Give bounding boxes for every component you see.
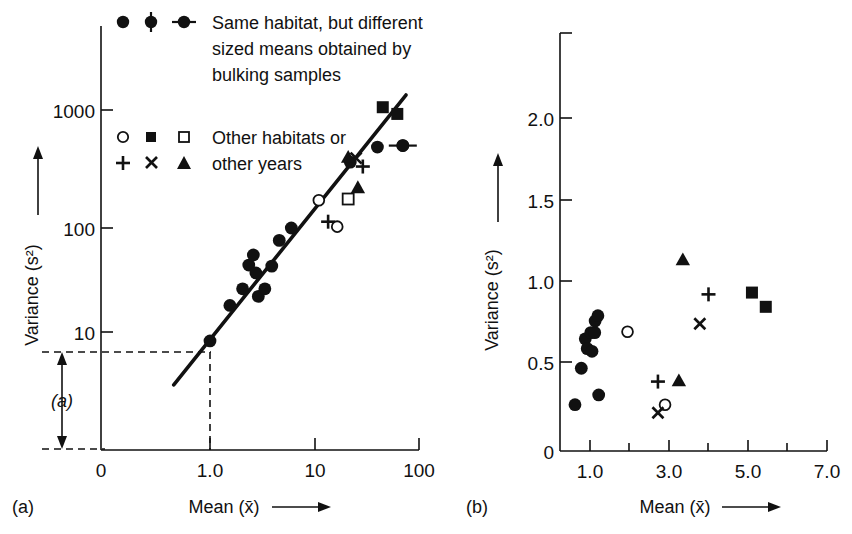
panel-a-guides: (a) [42,352,211,450]
marker-cross [694,318,705,329]
panel-a-xtick-label-10: 10 [304,460,325,481]
panel-b-y-axis-title: Variance (s²) [482,249,502,351]
panel-a-xtick-label-0: 0 [96,460,107,481]
legend-marker-filled-circle [117,16,129,28]
marker-filled-square [746,287,758,299]
marker-plus [702,287,716,301]
panel-b-x-ticks [590,440,827,451]
marker-filled-circle-horizontal-errorbar [389,139,417,152]
marker-open-square [343,194,354,205]
marker-open-circle [313,195,324,206]
panel-a-x-axis-arrow [272,502,331,512]
legend-entry-3-line-1: other years [212,154,302,174]
marker-filled-circle [569,398,582,411]
panel-b-y-axis-title-group: Variance (s²) [482,153,503,351]
marker-filled-triangle [672,373,686,386]
panel-b-y-ticks [560,118,572,362]
panel-b-data-points [569,252,772,418]
legend-marker-filled-square [146,132,156,142]
marker-filled-circle [371,141,384,154]
marker-plus [651,375,665,389]
panel-a-ytick-label-10: 10 [74,323,95,344]
marker-filled-circle [592,309,605,322]
marker-filled-circle [592,389,605,402]
marker-open-circle [622,326,633,337]
marker-filled-circle [247,249,260,262]
marker-filled-triangle [351,180,365,193]
panel-b-xtick-label-7.0: 7.0 [814,461,840,482]
panel-b-y-axis-arrow-head [493,153,503,166]
panel-b-label: (b) [466,497,488,517]
legend-entry-1-line-3: bulking samples [212,65,341,85]
legend-entry-1-line-1: Same habitat, but different [212,13,423,33]
figure-root: 1000 100 10 0 1.0 10 100 Variance (s²) M… [0,0,852,534]
marker-filled-circle [223,299,236,312]
panel-b-ytick-label-2.0: 2.0 [528,109,554,130]
marker-filled-circle [588,326,601,339]
panel-a-label: (a) [12,497,34,517]
marker-filled-circle [236,282,249,295]
marker-filled-circle [258,282,271,295]
panel-a-y-ticks [101,110,113,332]
panel-a: 1000 100 10 0 1.0 10 100 Variance (s²) M… [12,26,435,517]
panel-a-xtick-label-1: 1.0 [197,460,223,481]
panel-b-xtick-label-1.0: 1.0 [577,461,603,482]
legend-entry-1-line-2: sized means obtained by [212,39,411,59]
panel-a-bracket-arrow-down [57,436,67,449]
legend-marker-plus [116,156,130,170]
panel-b-ytick-label-1.5: 1.5 [528,191,554,212]
marker-filled-circle [285,222,298,235]
panel-a-x-axis-title: Mean (x̄) [188,497,259,517]
legend-marker-open-circle [118,132,128,142]
marker-filled-square [760,301,772,313]
scientific-figure: 1000 100 10 0 1.0 10 100 Variance (s²) M… [0,0,852,534]
panel-b-xtick-label-5.0: 5.0 [735,461,761,482]
marker-filled-circle [575,362,588,375]
marker-filled-circle [250,267,263,280]
legend-marker-open-square [179,132,189,142]
panel-a-y-axis-title: Variance (s²) [22,244,42,346]
panel-b-ytick-label-1.0: 1.0 [528,272,554,293]
panel-b-xtick-label-3.0: 3.0 [656,461,682,482]
marker-filled-circle [586,345,599,358]
panel-a-y-axis-arrow-head [33,146,43,159]
panel-b: 2.0 1.5 1.0 0.5 0 1.0 3.0 5.0 7.0 Varian… [466,33,840,517]
panel-a-bracket-label: (a) [51,391,73,411]
panel-a-y-axis-title-group: Variance (s²) [22,146,43,346]
marker-filled-circle [273,234,286,247]
panel-b-x-axis-title: Mean (x̄) [639,497,710,517]
panel-a-x-ticks [210,438,419,450]
panel-b-ytick-label-0: 0 [543,442,554,463]
panel-b-x-axis-arrow [722,502,781,512]
panel-a-xtick-label-100: 100 [403,460,435,481]
marker-filled-triangle [676,252,690,265]
marker-cross [652,407,663,418]
legend-marker-filled-triangle [177,156,191,169]
panel-a-bracket-arrow-up [57,352,67,365]
panel-a-ytick-label-1000: 1000 [53,101,95,122]
marker-filled-circle [204,335,217,348]
legend-marker-cross [146,157,157,168]
marker-filled-square [377,101,389,113]
panel-b-ytick-label-0.5: 0.5 [528,353,554,374]
marker-filled-circle [265,260,278,273]
panel-a-ytick-label-100: 100 [63,219,95,240]
legend-marker-filled-circle-horizontal-errorbar [172,16,196,28]
legend-marker-filled-circle-vertical-errorbar [145,12,157,32]
marker-filled-square [391,108,403,120]
legend-entry-2-line-1: Other habitats or [212,128,346,148]
